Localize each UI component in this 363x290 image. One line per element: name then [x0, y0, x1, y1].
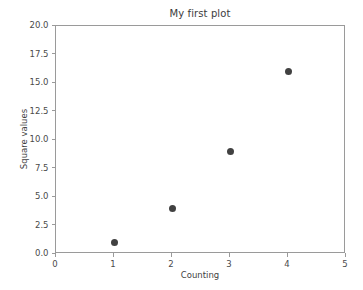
x-tick-mark: [345, 253, 346, 257]
x-tick-label: 3: [226, 259, 231, 269]
y-tick: 5.0: [35, 190, 55, 202]
x-tick: 3: [217, 253, 241, 269]
y-tick-label: 10.0: [30, 134, 52, 144]
x-tick: 2: [159, 253, 183, 269]
y-tick: 12.5: [30, 105, 55, 117]
y-tick-label: 20.0: [30, 20, 52, 30]
y-tick-label: 2.5: [35, 220, 52, 230]
x-tick-mark: [113, 253, 114, 257]
x-axis-label: Counting: [55, 270, 345, 280]
x-tick-mark: [55, 253, 56, 257]
x-axis-ticks: 012345: [55, 253, 345, 271]
data-point: [227, 148, 234, 155]
x-tick-mark: [287, 253, 288, 257]
chart-title: My first plot: [55, 8, 345, 19]
y-tick: 7.5: [35, 162, 55, 174]
x-tick: 1: [101, 253, 125, 269]
plot-area: [55, 25, 345, 253]
x-tick: 5: [333, 253, 357, 269]
y-tick-label: 15.0: [30, 77, 52, 87]
y-tick-label: 12.5: [30, 106, 52, 116]
chart-figure: My first plot Square values 0.02.55.07.5…: [0, 0, 363, 290]
y-tick: 2.5: [35, 219, 55, 231]
data-point: [111, 239, 118, 246]
y-axis-ticks: 0.02.55.07.510.012.515.017.520.0: [0, 25, 55, 253]
data-point: [285, 68, 292, 75]
x-tick-label: 4: [284, 259, 289, 269]
x-tick: 0: [43, 253, 67, 269]
x-tick: 4: [275, 253, 299, 269]
x-tick-mark: [229, 253, 230, 257]
x-tick-label: 0: [52, 259, 57, 269]
y-tick-label: 7.5: [35, 163, 52, 173]
scatter-series: [56, 26, 344, 252]
y-tick: 20.0: [30, 19, 55, 31]
data-point: [169, 205, 176, 212]
x-tick-label: 5: [342, 259, 347, 269]
x-tick-mark: [171, 253, 172, 257]
x-tick-label: 2: [168, 259, 173, 269]
y-tick-label: 17.5: [30, 49, 52, 59]
y-tick: 17.5: [30, 48, 55, 60]
y-tick-label: 5.0: [35, 191, 52, 201]
x-tick-label: 1: [110, 259, 115, 269]
y-tick: 15.0: [30, 76, 55, 88]
y-tick: 10.0: [30, 133, 55, 145]
